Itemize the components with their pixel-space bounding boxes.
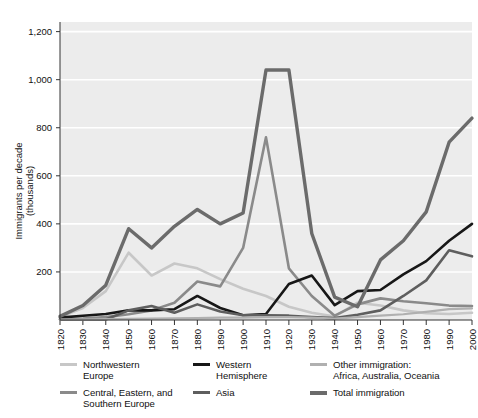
svg-text:(thousands): (thousands): [24, 166, 35, 216]
svg-text:Immigrants per decade: Immigrants per decade: [13, 142, 24, 239]
svg-text:400: 400: [36, 218, 52, 229]
svg-text:1970: 1970: [398, 329, 409, 350]
svg-text:1900: 1900: [238, 329, 249, 350]
legend-label: Asia: [216, 387, 234, 398]
svg-text:1830: 1830: [77, 329, 88, 350]
legend-swatch: [193, 363, 210, 366]
legend-swatch: [310, 391, 327, 395]
svg-text:1860: 1860: [146, 329, 157, 350]
svg-text:1820: 1820: [55, 329, 66, 350]
x-axis-tick-marks: [60, 320, 472, 325]
legend-item: Central, Eastern, and Southern Europe: [60, 387, 193, 415]
svg-text:1,200: 1,200: [28, 26, 52, 37]
y-axis-title: Immigrants per decade(thousands): [13, 142, 35, 239]
svg-text:1910: 1910: [261, 329, 272, 350]
legend-item: Other immigration: Africa, Australia, Oc…: [310, 359, 478, 387]
svg-text:1950: 1950: [352, 329, 363, 350]
svg-text:800: 800: [36, 122, 52, 133]
legend-item: Asia: [193, 387, 310, 415]
svg-text:600: 600: [36, 170, 52, 181]
svg-text:1930: 1930: [306, 329, 317, 350]
legend-label: Western Hemisphere: [216, 359, 267, 381]
svg-text:1920: 1920: [283, 329, 294, 350]
legend-label: Total immigration: [333, 387, 405, 398]
svg-text:1880: 1880: [192, 329, 203, 350]
svg-text:2000: 2000: [467, 329, 478, 350]
svg-text:1,000: 1,000: [28, 74, 52, 85]
y-axis-tick-labels: 2004006008001,0001,200: [28, 26, 60, 277]
svg-text:1980: 1980: [421, 329, 432, 350]
chart-legend: Northwestern EuropeWestern HemisphereOth…: [60, 359, 478, 415]
svg-text:1960: 1960: [375, 329, 386, 350]
plot-area-background: [60, 22, 472, 320]
svg-text:1870: 1870: [169, 329, 180, 350]
legend-label: Other immigration: Africa, Australia, Oc…: [333, 359, 439, 381]
svg-text:1850: 1850: [123, 329, 134, 350]
legend-label: Central, Eastern, and Southern Europe: [83, 387, 173, 409]
chart-canvas: 2004006008001,0001,200 18201830184018501…: [0, 0, 478, 418]
svg-text:1940: 1940: [329, 329, 340, 350]
legend-swatch: [60, 363, 77, 366]
legend-item: Northwestern Europe: [60, 359, 193, 387]
svg-text:1840: 1840: [100, 329, 111, 350]
legend-item: Total immigration: [310, 387, 478, 415]
x-axis-tick-labels: 1820183018401850186018701880189019001910…: [55, 329, 478, 350]
svg-text:200: 200: [36, 266, 52, 277]
legend-swatch: [60, 391, 77, 394]
svg-text:1890: 1890: [215, 329, 226, 350]
legend-label: Northwestern Europe: [83, 359, 139, 381]
legend-swatch: [310, 363, 327, 366]
legend-swatch: [193, 391, 210, 394]
svg-text:1990: 1990: [444, 329, 455, 350]
legend-item: Western Hemisphere: [193, 359, 310, 387]
immigration-line-chart: 2004006008001,0001,200 18201830184018501…: [0, 0, 478, 418]
